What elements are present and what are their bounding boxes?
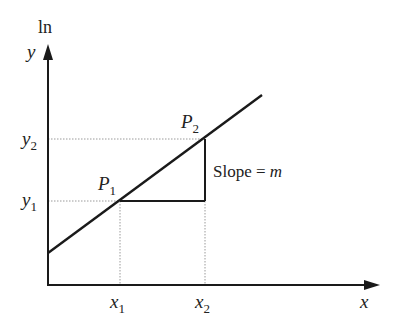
x1-label: x1 — [109, 291, 125, 316]
guide-lines — [48, 139, 205, 285]
x-axis-label: x — [359, 291, 369, 312]
y1-label: y1 — [20, 189, 37, 214]
y-axis-prefix: ln — [38, 17, 52, 37]
p1-label: P1 — [97, 173, 116, 198]
ln-y-vs-x-diagram: ln y x y2 y1 x1 x2 P1 P2 Slope = m — [0, 0, 398, 331]
slope-label: Slope = m — [213, 162, 282, 181]
y2-label: y2 — [20, 128, 37, 153]
axes — [43, 44, 380, 290]
y-axis-label: y — [25, 41, 36, 62]
x2-label: x2 — [194, 291, 210, 316]
y-axis-arrow-icon — [43, 44, 53, 60]
p2-label: P2 — [180, 111, 199, 136]
x-axis-arrow-icon — [364, 280, 380, 290]
